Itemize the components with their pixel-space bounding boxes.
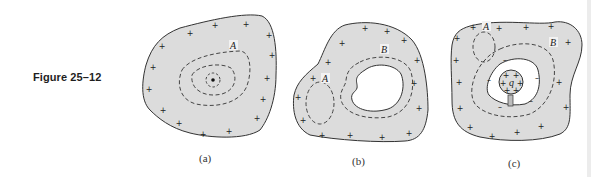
- svg-text:+: +: [226, 127, 233, 136]
- svg-text:+: +: [295, 93, 302, 102]
- svg-text:+: +: [496, 24, 503, 33]
- svg-text:+: +: [523, 23, 530, 32]
- svg-text:+: +: [416, 104, 423, 113]
- panel-a-caption: (a): [199, 152, 211, 164]
- svg-text:–: –: [498, 103, 502, 112]
- svg-text:–: –: [535, 74, 539, 83]
- svg-text:+: +: [160, 106, 167, 115]
- svg-text:+: +: [362, 24, 369, 33]
- svg-text:–: –: [503, 56, 507, 65]
- panel-b-diagram: ++ ++ ++ ++ ++ ++ ++ + B A: [293, 23, 428, 142]
- svg-text:+: +: [319, 131, 326, 140]
- svg-text:+: +: [384, 27, 391, 36]
- svg-text:+: +: [325, 58, 332, 67]
- svg-text:+: +: [401, 36, 408, 45]
- svg-text:–: –: [487, 76, 491, 85]
- panel-c-label-A: A: [482, 21, 490, 32]
- svg-text:+: +: [457, 104, 464, 113]
- svg-text:+: +: [339, 39, 346, 48]
- panel-b-caption: (b): [352, 155, 365, 167]
- svg-text:+: +: [254, 114, 261, 123]
- svg-text:+: +: [414, 56, 421, 65]
- panel-c-diagram: ++ ++ ++ q –– –– – ++ ++ ++ ++ ++ ++ ++ …: [451, 21, 582, 141]
- svg-text:+: +: [514, 128, 521, 137]
- svg-text:+: +: [456, 78, 463, 87]
- svg-text:+: +: [266, 31, 273, 40]
- svg-text:+: +: [556, 78, 563, 87]
- svg-text:+: +: [150, 63, 157, 72]
- svg-text:+: +: [146, 85, 153, 94]
- svg-text:–: –: [529, 97, 533, 106]
- svg-text:+: +: [347, 131, 354, 140]
- svg-text:+: +: [310, 74, 317, 83]
- svg-text:+: +: [264, 74, 271, 83]
- svg-text:+: +: [454, 34, 461, 43]
- svg-text:+: +: [467, 123, 474, 132]
- figure-diagrams: ++ ++ ++ ++ ++ ++ ++ + A ++ ++ ++ ++ ++ …: [0, 0, 591, 177]
- svg-text:+: +: [470, 23, 477, 32]
- panel-c-caption: (c): [508, 157, 520, 169]
- svg-text:+: +: [212, 21, 219, 30]
- panel-b-label-A: A: [321, 73, 329, 84]
- svg-text:+: +: [411, 79, 418, 88]
- panel-b-label-B: B: [381, 44, 387, 55]
- svg-text:+: +: [538, 122, 545, 131]
- svg-text:+: +: [300, 116, 307, 125]
- panel-a-label-A: A: [229, 40, 237, 51]
- svg-text:+: +: [243, 20, 250, 29]
- page-edge-shadow: [587, 0, 591, 177]
- svg-text:+: +: [453, 56, 460, 65]
- svg-text:+: +: [379, 133, 386, 142]
- svg-text:+: +: [200, 130, 207, 139]
- svg-text:+: +: [565, 38, 572, 47]
- svg-text:+: +: [563, 103, 570, 112]
- panel-c-charge-label-q: q: [509, 77, 514, 88]
- svg-text:+: +: [159, 42, 166, 51]
- panel-a-center-point: [211, 78, 215, 82]
- panel-c-label-B: B: [550, 37, 556, 48]
- svg-text:+: +: [187, 29, 194, 38]
- svg-text:+: +: [176, 119, 183, 128]
- svg-text:+: +: [406, 129, 413, 138]
- panel-a-diagram: ++ ++ ++ ++ ++ ++ ++ + A: [143, 15, 276, 139]
- svg-text:+: +: [489, 132, 496, 141]
- panel-c-insulating-stand: [508, 95, 513, 106]
- svg-text:+: +: [269, 51, 276, 60]
- svg-text:+: +: [548, 22, 555, 31]
- svg-text:+: +: [260, 95, 267, 104]
